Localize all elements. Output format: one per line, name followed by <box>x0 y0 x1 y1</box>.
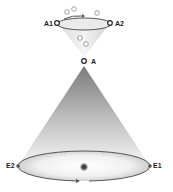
upper-cone-rim <box>57 18 111 30</box>
point-e1 <box>148 164 152 168</box>
particle <box>72 7 77 12</box>
arrow-head-icon <box>82 14 85 18</box>
upper-cone: A1 A2 <box>44 7 124 57</box>
point-a2 <box>108 21 113 26</box>
point-e2 <box>16 164 20 168</box>
particle <box>78 36 83 41</box>
label-a1: A1 <box>44 20 53 27</box>
label-a: A <box>91 58 96 65</box>
label-a2: A2 <box>115 20 124 27</box>
label-e1: E1 <box>153 162 162 169</box>
point-a <box>82 59 87 64</box>
cone-diagram: A1 A2 A E2 E1 <box>0 0 173 192</box>
point-a1 <box>55 21 60 26</box>
center-dot <box>79 162 89 172</box>
label-e2: E2 <box>6 162 15 169</box>
particle <box>95 11 100 16</box>
particle <box>84 42 89 47</box>
particle <box>65 10 70 15</box>
lower-cone: E2 E1 <box>6 66 162 183</box>
